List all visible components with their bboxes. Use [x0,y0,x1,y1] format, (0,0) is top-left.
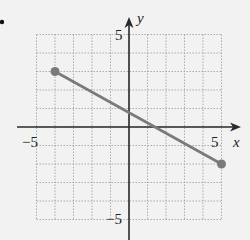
chart-stage: y x −5 5 5 −5 [0,0,250,240]
endpoint-dot [217,160,226,169]
coordinate-plane: y x −5 5 5 −5 [0,0,250,240]
y-tick-min: −5 [106,211,122,227]
y-axis-label: y [135,10,144,26]
line-segment [55,72,222,165]
x-tick-min: −5 [22,134,38,150]
bullet-dot [0,20,4,24]
endpoint-dot [51,67,60,76]
x-axis-label: x [232,134,240,150]
x-tick-max: 5 [211,134,219,150]
y-tick-max: 5 [115,27,123,43]
data-series [51,67,227,169]
axes [17,17,241,240]
